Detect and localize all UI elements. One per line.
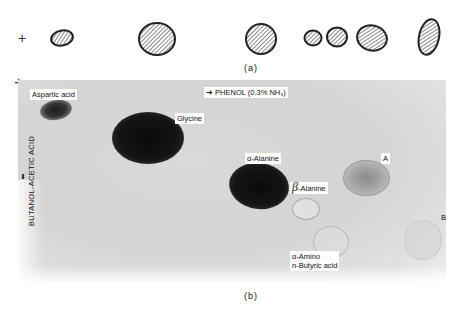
solvent-direction-vertical: BUTANOL-ACETIC ACID xyxy=(27,136,36,226)
caption-a: (a) xyxy=(244,63,258,73)
hatched-spot xyxy=(355,23,390,54)
label-alpha-alanine: α-Alanine xyxy=(245,153,281,164)
hatched-spot xyxy=(415,17,442,56)
caption-b: (b) xyxy=(244,291,258,301)
hatched-spot xyxy=(246,24,276,54)
beta-alanine-text: -Alanine xyxy=(298,184,326,193)
hatched-spot xyxy=(305,31,322,46)
aminobutyric-line-1: α-Amino xyxy=(292,252,337,261)
label-spot-a: A xyxy=(381,153,390,164)
label-aspartic-acid: Aspartic acid xyxy=(30,89,77,100)
hatched-spot xyxy=(50,28,75,47)
spot-glycine xyxy=(112,112,184,164)
label-glycine: Glycine xyxy=(175,113,204,124)
hatched-spot xyxy=(139,23,175,55)
label-spot-b: B xyxy=(439,212,448,223)
hatched-spot xyxy=(327,28,347,47)
aminobutyric-line-2: n-Butyric acid xyxy=(292,261,337,270)
spot-b xyxy=(404,220,442,260)
label-aminobutyric-acid: α-Amino n-Butyric acid xyxy=(290,251,339,271)
photo-edge xyxy=(18,266,446,284)
arrow-down-icon: ⬇ xyxy=(20,173,26,181)
label-beta-alanine: β-Alanine xyxy=(290,182,328,194)
schematic-spots xyxy=(0,0,461,70)
solvent-direction-horizontal: ➜ PHENOL (0.3% NH₃) xyxy=(204,87,288,98)
spot-a xyxy=(343,160,390,196)
spot-beta-alanine xyxy=(292,198,320,220)
